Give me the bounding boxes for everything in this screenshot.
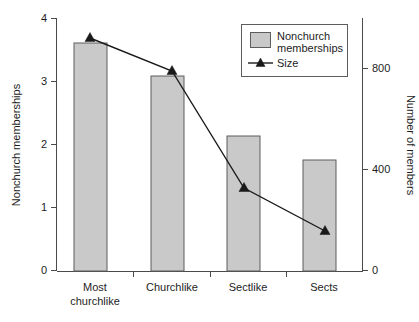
- right-axis-title: Number of members: [405, 95, 417, 196]
- legend-label-nonchurch-line2: memberships: [277, 42, 344, 54]
- category-label-2: Sectlike: [229, 281, 268, 293]
- bar-0: [74, 43, 107, 271]
- category-label-0-line1: Most: [83, 281, 107, 293]
- legend-label-size: Size: [277, 57, 298, 69]
- left-tick-label-3: 3: [41, 75, 47, 87]
- right-tick-label-800: 800: [372, 62, 390, 74]
- category-label-0-line2: churchlike: [70, 295, 120, 307]
- bar-2: [227, 136, 260, 271]
- left-tick-label-1: 1: [41, 201, 47, 213]
- left-axis-title: Nonchurch memberships: [10, 83, 22, 206]
- chart-legend: Nonchurch memberships Size: [242, 25, 348, 77]
- legend-swatch-nonchurch-memberships: [251, 33, 271, 48]
- bar-1: [151, 76, 184, 271]
- left-tick-label-2: 2: [41, 138, 47, 150]
- left-tick-label-0: 0: [41, 264, 47, 276]
- legend-label-nonchurch-line1: Nonchurch: [277, 30, 330, 42]
- chart-background: [0, 0, 419, 322]
- bar-3: [303, 160, 336, 271]
- chart-svg: 4 3 2 1 0 Nonchurch memberships Most chu…: [0, 0, 419, 322]
- right-tick-label-400: 400: [372, 163, 390, 175]
- right-tick-label-0: 0: [372, 264, 378, 276]
- left-tick-label-4: 4: [41, 12, 47, 24]
- chart-figure: 4 3 2 1 0 Nonchurch memberships Most chu…: [0, 0, 419, 322]
- category-label-3: Sects: [310, 281, 338, 293]
- category-label-1: Churchlike: [146, 281, 198, 293]
